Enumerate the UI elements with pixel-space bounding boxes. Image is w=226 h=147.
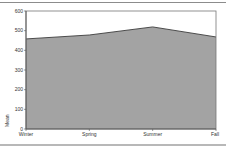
y-tick-label: 200 [15, 86, 24, 92]
y-tick-label: 100 [15, 106, 24, 112]
y-tick-label: 300 [15, 67, 24, 73]
y-axis-title: Mean [4, 114, 10, 127]
x-tick-label: Summer [143, 131, 162, 137]
y-tick-label: 600 [15, 8, 24, 14]
area-layer [26, 27, 216, 129]
y-axis-ticks: 0100200300400500600 [15, 8, 26, 132]
y-tick-label: 400 [15, 47, 24, 53]
area-fill [26, 27, 216, 129]
x-tick-label: Fall [211, 131, 219, 137]
y-tick-label: 500 [15, 27, 24, 33]
x-tick-label: Winter [19, 131, 34, 137]
x-tick-label: Spring [82, 131, 97, 137]
area-chart: 0100200300400500600 WinterSpringSummerFa… [0, 0, 226, 147]
x-axis-ticks: WinterSpringSummerFall [19, 129, 219, 137]
